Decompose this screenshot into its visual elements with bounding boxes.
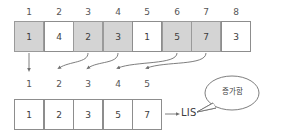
lis-cell-5[interactable]: 7 [132, 99, 162, 130]
lis-cell-2[interactable]: 2 [44, 99, 74, 130]
middle-index-3: 3 [73, 79, 103, 90]
middle-index-5: 5 [132, 79, 162, 90]
middle-index-1: 1 [14, 79, 44, 90]
middle-index-2: 2 [44, 79, 74, 90]
bubble-note-text: 증가함 [205, 85, 259, 96]
lis-result-label: LIS [181, 107, 197, 118]
arrow-2 [59, 53, 88, 68]
arrow-3 [88, 53, 118, 68]
lis-cell-3[interactable]: 3 [73, 99, 103, 130]
lis-cell-4[interactable]: 5 [103, 99, 133, 130]
lis-cell-1[interactable]: 1 [14, 99, 44, 130]
arrow-4 [118, 53, 177, 68]
middle-index-4: 4 [103, 79, 133, 90]
lis-diagram: 1 2 3 4 5 6 7 8 1 4 2 3 1 5 7 3 [0, 0, 282, 137]
